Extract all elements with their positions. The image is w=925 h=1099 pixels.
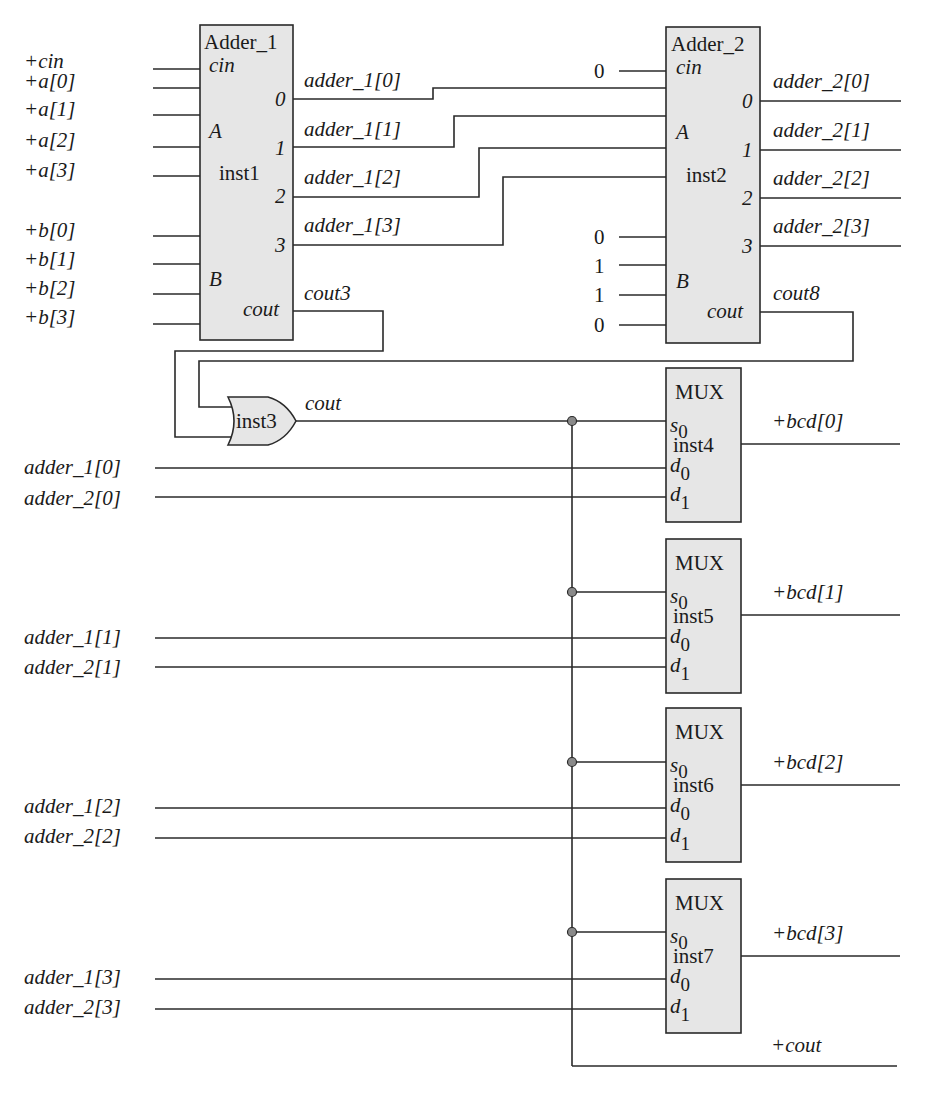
adder-1-pin-cout: cout [243,297,280,321]
mux6-in1-label: adder_2[2] [24,824,121,848]
junction-dot [568,588,577,597]
output-label-bcd1: +bcd[1] [772,580,843,604]
mux4-title: MUX [675,380,724,404]
adder-2-pin-2: 2 [742,186,753,210]
left-input-labels: +cin +a[0] +a[1] +a[2] +a[3] +b[0] +b[1]… [24,49,76,329]
mux-inst4: adder_1[0] adder_2[0] MUX s0 inst4 d0 d1… [24,368,900,522]
net-label-adder1-2: adder_1[2] [304,165,401,189]
output-label-bcd2: +bcd[2] [772,750,843,774]
adder-2-pin-3: 3 [741,234,753,258]
adder2-const-inputs: 0 0 1 1 0 [594,59,666,337]
adder-1-pin-3: 3 [274,233,286,257]
adder-2-block: Adder_2 cin A inst2 B cout 0 1 2 3 [666,27,760,343]
net-label-adder2-1: adder_2[1] [773,118,870,142]
mux-inst5: adder_1[1] adder_2[1] MUX s0 inst5 d0 d1… [24,539,900,693]
adder-2-pin-a: A [674,120,689,144]
const-b3: 0 [594,313,605,337]
adder-2-pin-b: B [676,269,689,293]
bcd-adder-schematic: +cin +a[0] +a[1] +a[2] +a[3] +b[0] +b[1]… [0,0,925,1099]
adder1-output-labels: adder_1[0] adder_1[1] adder_1[2] adder_1… [304,68,401,305]
input-label-a2: +a[2] [24,128,76,152]
adder-1-block: Adder_1 cin A inst1 B cout 0 1 2 3 [200,25,293,340]
adder-2-pin-cin: cin [676,55,702,79]
const-cin: 0 [594,59,605,83]
adder-1-pin-b: B [209,267,222,291]
junction-dot [568,417,577,426]
net-label-adder2-0: adder_2[0] [773,69,870,93]
mux7-in0-label: adder_1[3] [24,965,121,989]
adder-1-pin-a: A [207,119,222,143]
adder-2-instance: inst2 [686,163,727,187]
select-bus: +cout [296,417,897,1067]
adder-1-title: Adder_1 [204,30,277,54]
const-b1: 1 [594,254,605,278]
adder-2-pin-1: 1 [742,138,753,162]
adder-1-pin-1: 1 [275,136,286,160]
net-label-adder1-3: adder_1[3] [304,213,401,237]
mux-inst6: adder_1[2] adder_2[2] MUX s0 inst6 d0 d1… [24,708,900,862]
mux5-title: MUX [675,551,724,575]
net-label-adder1-0: adder_1[0] [304,68,401,92]
adder-1-pin-cin: cin [209,53,235,77]
mux6-in0-label: adder_1[2] [24,794,121,818]
adder-2-title: Adder_2 [671,32,744,56]
net-label-cout3: cout3 [304,281,351,305]
net-label-cout: cout [305,391,342,415]
input-label-a3: +a[3] [24,158,76,182]
net-label-adder2-2: adder_2[2] [773,166,870,190]
adder-1-pin-2: 2 [275,184,286,208]
adder-2-pin-cout: cout [707,299,744,323]
mux5-in0-label: adder_1[1] [24,625,121,649]
output-label-cout: +cout [771,1033,822,1057]
const-b0: 0 [594,225,605,249]
adder2-output-labels: adder_2[0] adder_2[1] adder_2[2] adder_2… [760,69,901,305]
mux5-in1-label: adder_2[1] [24,655,121,679]
mux7-in1-label: adder_2[3] [24,995,121,1019]
output-label-bcd0: +bcd[0] [772,409,843,433]
input-label-a1: +a[1] [24,97,76,121]
mux-inst7: adder_1[3] adder_2[3] MUX s0 inst7 d0 d1… [24,879,900,1033]
junction-dot [568,928,577,937]
input-label-b0: +b[0] [24,218,76,242]
mux6-title: MUX [675,720,724,744]
output-label-bcd3: +bcd[3] [772,921,843,945]
input-label-b2: +b[2] [24,276,76,300]
or-gate-instance: inst3 [236,409,277,433]
adder1-input-wires [153,69,200,324]
adder-1-pin-0: 0 [275,87,286,111]
mux4-in1-label: adder_2[0] [24,486,121,510]
junction-dot [568,758,577,767]
net-label-adder1-1: adder_1[1] [304,117,401,141]
or-gate-inst3: inst3 cout [228,391,342,445]
net-label-adder2-3: adder_2[3] [773,214,870,238]
input-label-b3: +b[3] [24,305,76,329]
mux4-in0-label: adder_1[0] [24,455,121,479]
input-label-b1: +b[1] [24,247,76,271]
adder-1-instance: inst1 [219,161,260,185]
input-label-a0: +a[0] [24,69,76,93]
adder-2-pin-0: 0 [742,89,753,113]
net-label-cout8: cout8 [773,281,820,305]
mux7-title: MUX [675,891,724,915]
const-b2: 1 [594,283,605,307]
